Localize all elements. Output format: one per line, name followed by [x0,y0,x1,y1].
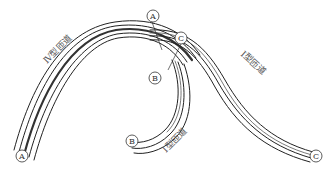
diagram-canvas: A C B B A C Ⅳ型匝道 Ⅰ型匝道 Ⅰ型匝道 [0,0,331,174]
svg-text:B: B [152,74,158,83]
svg-text:A: A [149,12,156,21]
svg-text:C: C [313,152,319,161]
marker-B-mid: B [149,72,161,84]
label-ramp-i-main: Ⅰ型匝道 [239,48,269,77]
marker-C-end: C [310,150,322,162]
svg-text:A: A [18,152,25,161]
marker-C-top: C [175,32,187,44]
marker-A-top: A [147,10,159,22]
svg-text:C: C [178,34,184,43]
marker-B-end: B [126,135,138,147]
ramp-layout-diagram: A C B B A C Ⅳ型匝道 Ⅰ型匝道 Ⅰ型匝道 [0,0,331,174]
marker-A-end: A [16,150,28,162]
svg-text:B: B [129,137,135,146]
